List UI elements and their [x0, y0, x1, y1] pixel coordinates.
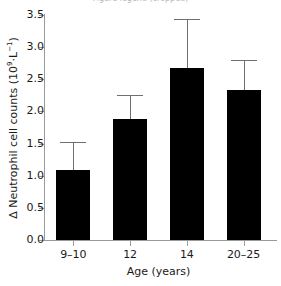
x-axis-title: Age (years) [45, 265, 272, 278]
plot-area [45, 15, 272, 240]
x-axis-tick [130, 241, 131, 246]
bar[interactable] [227, 90, 261, 240]
x-axis-tick-label: 9–10 [45, 249, 102, 261]
bar[interactable] [56, 170, 90, 240]
y-axis-title-exponent2: −1 [6, 42, 14, 52]
y-axis-title-exponent: 9 [6, 61, 14, 65]
error-bar-cap [60, 142, 86, 143]
y-axis-title-mid: ·L [7, 52, 20, 62]
error-bar-stem [73, 142, 74, 170]
bar[interactable] [170, 68, 204, 240]
x-axis-tick [73, 241, 74, 246]
y-axis-title-prefix: Δ Neutrophil cell counts (10 [7, 66, 20, 219]
cropped-caption-sliver: Figure legend (cropped) [0, 0, 281, 5]
x-axis-line [44, 240, 277, 241]
figure-container: Figure legend (cropped) 0.00.51.01.52.02… [0, 0, 281, 286]
error-bar-cap [174, 19, 200, 20]
error-bar-stem [244, 60, 245, 90]
error-bar-cap [117, 95, 143, 96]
bar[interactable] [113, 119, 147, 240]
x-axis-tick [244, 241, 245, 246]
error-bar-stem [187, 19, 188, 69]
x-axis-tick-label: 12 [102, 249, 159, 261]
x-axis-tick-label: 14 [159, 249, 216, 261]
error-bar-cap [231, 60, 257, 61]
error-bar-stem [130, 95, 131, 119]
y-axis-title: Δ Neutrophil cell counts (109·L−1) [8, 8, 20, 248]
x-axis-tick-label: 20–25 [215, 249, 272, 261]
y-axis-title-suffix: ) [7, 37, 20, 41]
x-axis-tick [187, 241, 188, 246]
